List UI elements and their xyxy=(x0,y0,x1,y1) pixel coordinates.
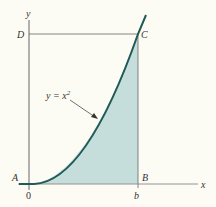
curve-equation-exponent: 2 xyxy=(67,89,71,97)
b-tick-label: b xyxy=(134,190,139,201)
point-c-label: C xyxy=(141,29,148,40)
curve-equation-label: y = x2 xyxy=(45,89,71,101)
y-axis-label: y xyxy=(25,8,31,19)
diagram-canvas: y D C A B x 0 b y = x2 xyxy=(0,0,216,207)
figure: y D C A B x 0 b y = x2 xyxy=(0,0,216,207)
point-d-label: D xyxy=(16,29,25,40)
origin-label: 0 xyxy=(26,190,31,201)
curve-equation-base: y = x xyxy=(45,90,67,101)
label-arrow xyxy=(70,100,95,117)
x-axis-label: x xyxy=(200,179,206,190)
point-a-label: A xyxy=(11,172,19,183)
point-b-label: B xyxy=(142,172,148,183)
arrowhead-icon xyxy=(91,113,98,119)
